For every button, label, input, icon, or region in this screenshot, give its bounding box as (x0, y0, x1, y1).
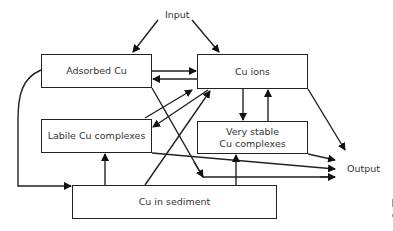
very-stable-cu-complexes-box: Very stable Cu complexes (197, 121, 308, 154)
verystable-to-output-arrow (308, 154, 335, 160)
cu-in-sediment-label: Cu in sediment (139, 196, 211, 208)
adsorbed-cu-box: Adsorbed Cu (41, 54, 152, 88)
input-to-adsorbed-arrow (133, 20, 158, 52)
labile-to-ions-arrow (145, 90, 192, 118)
cu-ions-label: Cu ions (235, 66, 270, 78)
very-stable-label-line1: Very stable (226, 126, 279, 138)
input-label: Input (165, 9, 190, 20)
labile-to-output-arrow (152, 153, 335, 169)
input-to-ions-arrow (192, 20, 219, 52)
labile-cu-complexes-label: Labile Cu complexes (48, 130, 146, 142)
ions-to-output-arrow (308, 89, 345, 150)
adsorbed-cu-label: Adsorbed Cu (66, 65, 127, 77)
cu-in-sediment-box: Cu in sediment (72, 185, 277, 219)
copper-speciation-diagram: Input Output Adsorbed Cu Cu ions Labile … (0, 0, 393, 231)
adsorbed-diag-arrowhead (194, 162, 203, 177)
output-label: Output (347, 163, 380, 174)
very-stable-label-line2: Cu complexes (219, 138, 285, 150)
labile-cu-complexes-box: Labile Cu complexes (41, 119, 152, 153)
cu-ions-box: Cu ions (197, 54, 308, 89)
